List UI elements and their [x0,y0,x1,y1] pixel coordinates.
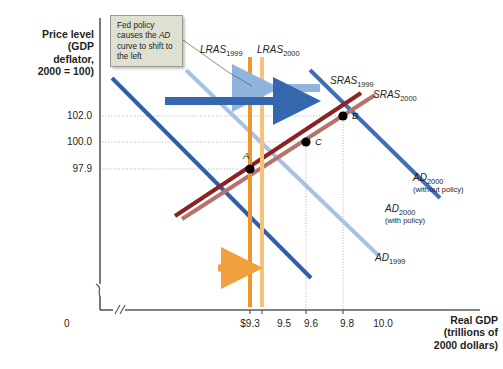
y-tick-97-9: 97.9 [46,163,92,174]
label-lras-1999: LRAS1999 [200,44,243,58]
x-tick-9-8: 9.8 [327,318,367,329]
callout-fed-policy: Fed policy causes the AD curve to shift … [110,15,183,67]
x-tick-10-0: 10.0 [363,318,403,329]
curve-ad-1999 [112,78,311,278]
y-axis-title: Price level (GDP deflator, 2000 = 100) [8,28,94,78]
point-b-marker [338,111,347,120]
y-tick-102: 102.0 [46,110,92,121]
callout-text-after: curve to shift to the left [117,42,173,61]
x-axis-break-icon [115,305,125,314]
y-tick-100: 100.0 [46,136,92,147]
point-a-marker [245,164,254,173]
label-sras-1999: SRAS1999 [330,75,374,89]
x-tick-9-6: 9.6 [291,318,331,329]
label-sras-2000: SRAS2000 [373,89,417,103]
x-axis-title: Real GDP (trillions of 2000 dollars) [394,314,498,351]
curve-sras-1999 [175,93,361,216]
y-axis-break-icon [96,284,100,296]
label-point-b: B [352,110,358,121]
label-lras-2000: LRAS2000 [257,44,300,58]
label-ad-2000-without-policy: AD2000(without policy) [413,172,464,195]
label-ad-2000-with-policy: AD2000(with policy) [385,203,425,226]
callout-text-before: Fed policy causes the [117,21,159,40]
callout-emphasis: AD [159,31,170,40]
origin-label: 0 [64,318,70,329]
point-c-marker [301,137,310,146]
label-point-c: C [315,136,322,147]
label-ad-1999: AD1999 [375,252,405,266]
figure-canvas: Price level (GDP deflator, 2000 = 100) R… [0,0,503,369]
label-point-a: A [243,150,249,161]
